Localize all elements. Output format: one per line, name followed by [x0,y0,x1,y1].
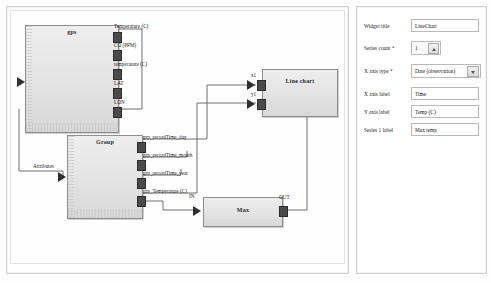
node-line-chart-input-label-1: y1 [251,91,256,97]
node-line-chart[interactable]: Line chart [262,69,338,117]
form-row-x-axis-type: X axis type * Date (observation) [357,62,486,84]
node-line-chart-input-port-1[interactable] [257,99,266,110]
node-group-output-label-2: grp_recordTime_year [143,170,188,176]
node-line-chart-title: Line chart [263,78,337,84]
widget-editor-window: gps Temperature (C) CO (PPM) temperature… [0,0,491,283]
label-series-1-label: Series 1 label [364,127,410,134]
label-x-axis-type: X axis type * [364,68,410,75]
label-widget-title: Widget title [364,23,410,30]
input-y-axis-label[interactable]: Temp (C) [411,105,479,118]
dataflow-canvas[interactable]: gps Temperature (C) CO (PPM) temperature… [10,10,345,264]
node-gps-output-label-4: LON [114,99,125,105]
label-x-axis-label: X axis label [364,91,410,98]
label-y-axis-label: Y axis label [364,109,410,116]
select-x-axis-type-value: Date (observation) [415,68,455,74]
node-gps-output-port-1[interactable] [113,50,122,61]
label-series-count: Series count * [364,45,410,52]
node-group-output-label-0: grp_recordTime_day [143,134,187,140]
form-row-series-1-label: Series 1 label Max temp [357,121,486,143]
chevron-down-icon[interactable] [467,66,479,77]
node-group-input-label: Attributes [33,163,54,169]
input-series-1-label[interactable]: Max temp [411,123,479,136]
input-x-axis-label[interactable]: Time [411,87,479,100]
node-group-stripe [68,136,74,218]
node-max-input-arrow[interactable] [193,206,201,216]
node-gps-title: gps [26,29,118,35]
stepper-series-count-button[interactable] [428,43,439,54]
node-max-output-label: OUT [279,194,290,200]
node-max-title: Max [204,207,282,213]
node-max-input-label: IN [189,193,194,199]
dataflow-canvas-panel[interactable]: gps Temperature (C) CO (PPM) temperature… [6,6,349,274]
node-gps-output-port-2[interactable] [113,69,122,80]
node-group-title: Group [68,139,142,145]
node-group[interactable]: Group [67,135,143,219]
node-gps-output-port-3[interactable] [113,88,122,99]
node-gps[interactable]: gps [25,25,119,133]
node-line-chart-input-arrow-0[interactable] [247,80,255,90]
node-gps-input-arrow[interactable] [17,77,25,87]
form-row-series-count: Series count * 1 [357,39,486,61]
input-widget-title[interactable]: LineChart [411,19,479,32]
node-group-output-port-3[interactable] [137,196,146,207]
widget-config-form[interactable]: Widget title LineChart Series count * 1 … [356,6,487,274]
node-gps-hatch [26,123,118,132]
node-gps-output-label-1: CO (PPM) [114,42,136,48]
node-group-hatch [68,209,142,218]
node-group-output-label-1: grp_recordTime_month [143,152,192,158]
node-gps-output-label-3: LAT [114,80,124,86]
node-line-chart-input-port-0[interactable] [257,80,266,91]
node-line-chart-input-arrow-1[interactable] [247,99,255,109]
node-gps-output-label-0: Temperature (C) [114,23,148,29]
node-gps-output-port-4[interactable] [113,107,122,118]
node-gps-output-label-2: temperature (C) [114,61,147,67]
node-group-output-label-3: grp_Temperature (C) [143,188,187,194]
node-max[interactable]: Max [203,197,283,227]
stepper-series-count-value: 1 [415,45,418,51]
stepper-series-count[interactable]: 1 [411,41,441,55]
node-max-output-port[interactable] [279,206,288,217]
node-line-chart-input-label-0: x1 [251,72,256,78]
select-x-axis-type[interactable]: Date (observation) [411,64,481,78]
node-gps-stripe [26,26,32,132]
form-row-widget-title: Widget title LineChart [357,17,486,39]
node-group-input-arrow[interactable] [58,172,66,182]
